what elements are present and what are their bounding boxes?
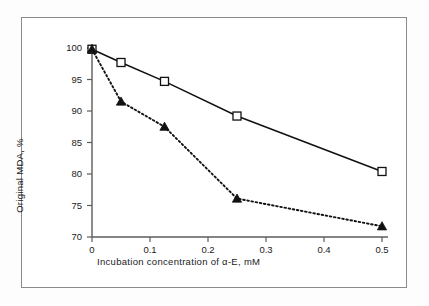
y-tick-label: 75 <box>56 200 82 211</box>
data-point-square <box>161 77 169 85</box>
y-tick-label: 95 <box>56 74 82 85</box>
y-tick-label: 85 <box>56 137 82 148</box>
x-tick-label: 0 <box>79 244 105 255</box>
x-tick-label: 0.1 <box>137 244 163 255</box>
data-point-square <box>233 112 241 120</box>
figure-canvas: Incubation concentration of α-E, mM Orig… <box>0 0 429 306</box>
x-tick-label: 0.4 <box>311 244 337 255</box>
data-point-triangle <box>160 122 169 130</box>
y-tick-label: 70 <box>56 231 82 242</box>
x-axis-label: Incubation concentration of α-E, mM <box>97 256 260 267</box>
y-axis-label: Original MDA, % <box>14 116 25 236</box>
data-point-square <box>117 58 125 66</box>
x-tick-label: 0.5 <box>369 244 395 255</box>
data-point-triangle <box>116 97 125 105</box>
y-tick-label: 90 <box>56 105 82 116</box>
data-point-square <box>378 167 386 175</box>
y-tick-label: 100 <box>56 42 82 53</box>
y-tick-label: 80 <box>56 168 82 179</box>
x-tick-label: 0.3 <box>253 244 279 255</box>
x-tick-label: 0.2 <box>195 244 221 255</box>
